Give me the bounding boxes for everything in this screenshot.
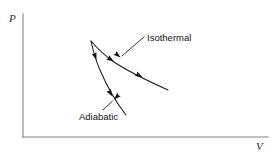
pv-diagram-figure: P V Isothermal Adiabatic <box>0 0 278 160</box>
isothermal-leader-line <box>122 37 144 56</box>
axes-group <box>23 14 268 137</box>
isothermal-leader-arrowhead <box>113 51 122 59</box>
isothermal-label: Isothermal <box>147 32 191 43</box>
adiabatic-label: Adiabatic <box>79 111 118 122</box>
adiabatic-leader-line <box>103 101 113 110</box>
isothermal-curve-group <box>91 41 168 90</box>
adiabatic-callout: Adiabatic <box>79 93 121 122</box>
y-axis-label: P <box>8 12 16 24</box>
adiabatic-curve <box>91 41 126 115</box>
adiabatic-curve-group <box>91 41 126 115</box>
x-axis-label: V <box>256 140 264 152</box>
adiabatic-arrowhead-upper <box>91 52 98 61</box>
isothermal-curve <box>91 41 168 90</box>
isothermal-callout: Isothermal <box>113 32 191 59</box>
pv-diagram-canvas: P V Isothermal Adiabatic <box>0 0 278 160</box>
